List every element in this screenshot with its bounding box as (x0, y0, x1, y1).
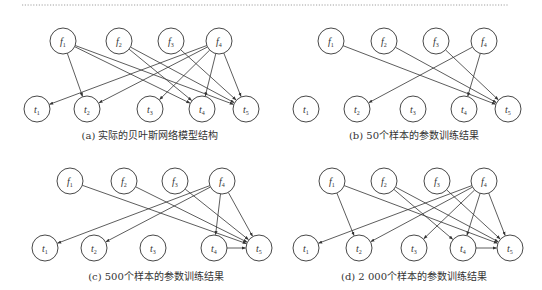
edge-f1-to-t2 (67, 53, 82, 96)
node-t3: t3 (140, 235, 166, 261)
edge-f4-to-t5 (228, 192, 252, 236)
node-t2: t2 (344, 96, 370, 122)
node-t1: t1 (293, 235, 319, 261)
node-t3: t3 (401, 235, 427, 261)
node-t5: t5 (233, 96, 259, 122)
node-t5: t5 (495, 96, 521, 122)
node-f2: f2 (371, 28, 397, 54)
node-t2: t2 (346, 235, 372, 261)
node-t1: t1 (32, 235, 58, 261)
node-f1: f1 (318, 28, 344, 54)
panel-d: f1f2f3f4t1t2t3t4t5(d) 2 000个样本的参数训练结果 (293, 168, 523, 282)
node-f3: f3 (424, 168, 450, 194)
edge-f4-to-t2 (369, 47, 473, 103)
node-f2: f2 (111, 168, 137, 194)
node-t5: t5 (497, 235, 523, 261)
node-f4: f4 (209, 168, 235, 194)
edge-f3-to-t5 (185, 189, 248, 240)
node-f3: f3 (423, 28, 449, 54)
node-f4: f4 (471, 168, 497, 194)
edge-f4-to-t2 (106, 187, 211, 242)
caption-b: (b) 50个样本的参数训练结果 (349, 129, 479, 141)
node-t1: t1 (293, 96, 319, 122)
node-f1: f1 (57, 168, 83, 194)
edge-f2-to-t4 (394, 189, 453, 239)
node-f4: f4 (206, 28, 232, 54)
node-t4: t4 (450, 235, 476, 261)
edge-f1-to-t2 (337, 193, 354, 235)
edge-f4-to-t5 (224, 53, 241, 96)
node-f1: f1 (319, 168, 345, 194)
edge-f2-to-t5 (395, 47, 496, 102)
edge-f4-to-t2 (371, 187, 473, 242)
panels: f1f2f3f4t1t2t3t4t5(a) 实际的贝叶斯网络模型结构f1f2f3… (24, 28, 523, 282)
edge-f4-to-t2 (99, 47, 207, 103)
edge-f4-to-t4 (468, 54, 481, 97)
node-t4: t4 (189, 96, 215, 122)
node-t4: t4 (451, 96, 477, 122)
edge-f1-to-t5 (75, 46, 233, 105)
figure-canvas: f1f2f3f4t1t2t3t4t5(a) 实际的贝叶斯网络模型结构f1f2f3… (0, 0, 542, 290)
node-t2: t2 (81, 235, 107, 261)
caption-a: (a) 实际的贝叶斯网络模型结构 (82, 129, 219, 141)
node-t3: t3 (400, 96, 426, 122)
edge-f1-to-t4 (75, 47, 190, 103)
edge-f4-to-t3 (160, 50, 210, 99)
panel-b: f1f2f3f4t1t2t3t4t5(b) 50个样本的参数训练结果 (293, 28, 521, 141)
node-t3: t3 (137, 96, 163, 122)
node-f4: f4 (471, 28, 497, 54)
node-t4: t4 (201, 235, 227, 261)
panel-a: f1f2f3f4t1t2t3t4t5(a) 实际的贝叶斯网络模型结构 (24, 28, 259, 141)
node-f2: f2 (106, 28, 132, 54)
node-t2: t2 (74, 96, 100, 122)
node-f3: f3 (162, 168, 188, 194)
node-f3: f3 (158, 28, 184, 54)
caption-d: (d) 2 000个样本的参数训练结果 (341, 270, 487, 282)
caption-c: (c) 500个样本的参数训练结果 (88, 270, 224, 282)
edge-f4-to-t5 (489, 193, 505, 235)
panel-c: f1f2f3f4t1t2t3t4t5(c) 500个样本的参数训练结果 (32, 168, 272, 282)
edge-f3-to-t5 (181, 50, 236, 100)
node-f2: f2 (371, 168, 397, 194)
node-t5: t5 (246, 235, 272, 261)
node-t1: t1 (24, 96, 50, 122)
node-f1: f1 (50, 28, 76, 54)
edge-f4-to-t1 (58, 186, 210, 244)
edge-f2-to-t5 (131, 47, 235, 103)
